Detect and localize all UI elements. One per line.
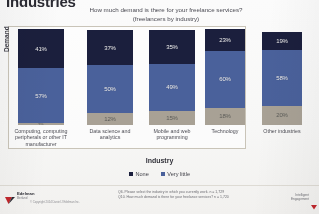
slide-canvas: Industries How much demand is there for … [0, 0, 319, 214]
tagline: Intelligent Engagement [291, 193, 309, 201]
legend-label: None [135, 171, 148, 177]
x-axis-category-label: Data science andanalytics [79, 128, 141, 141]
stacked-bar[interactable]: 37%50%12% [87, 29, 133, 125]
bar-group: 35%49%15% [149, 29, 195, 125]
bar-segment-very-little[interactable]: 50% [87, 65, 133, 113]
x-axis-category-label: Technology [197, 128, 253, 134]
bar-segment-very-little[interactable]: 60% [205, 51, 245, 108]
legend-item[interactable]: None [129, 171, 149, 177]
bar-segment-value: 35% [166, 44, 178, 50]
bar-segment-value: 49% [166, 84, 178, 90]
x-axis-category-label: Other industries [254, 128, 310, 134]
footnote-line-2: Q10. How much demand is there for your f… [118, 195, 229, 200]
stacked-bar[interactable]: 35%49%15% [149, 29, 195, 125]
bar-segment-value: 37% [104, 45, 116, 51]
bar-segment-very-little[interactable]: 58% [262, 50, 302, 106]
bar-segment-some[interactable]: 18% [205, 108, 245, 125]
bar-segment-none[interactable]: 41% [18, 29, 64, 68]
legend-item[interactable]: Very little [161, 171, 190, 177]
x-axis-category-label: Mobile and webprogramming [141, 128, 203, 141]
question-line-1: How much demand is there for your freela… [66, 6, 266, 15]
legend-label: Very little [167, 171, 190, 177]
bar-group: 23%60%18% [205, 29, 245, 125]
bar-segment-none[interactable]: 35% [149, 30, 195, 64]
logo-triangle-icon [5, 191, 15, 201]
footnote-line-1: Q6. Please select the industry in which … [118, 190, 229, 195]
bar-segment-value: 12% [104, 116, 116, 122]
legend-swatch-icon [129, 172, 133, 176]
bar-segment-some[interactable]: 15% [149, 111, 195, 125]
category-label-line: Technology [197, 128, 253, 134]
bar-group: 19%58%20% [262, 29, 302, 125]
copyright-text: © Copyright 2014 Daniel J Edelman Inc. [30, 200, 80, 204]
chart-question-header: How much demand is there for your freela… [66, 6, 266, 23]
bar-segment-none[interactable]: 19% [262, 32, 302, 50]
x-axis-label: Industry [0, 157, 319, 164]
bar-segment-value: 18% [219, 113, 231, 119]
bar-group: 37%50%12% [87, 29, 133, 125]
bar-segment-some[interactable]: 20% [262, 106, 302, 125]
bar-segment-value: 50% [104, 86, 116, 92]
stacked-bar[interactable]: 41%57%2% [18, 29, 64, 125]
bar-segment-very-little[interactable]: 57% [18, 68, 64, 123]
bar-segment-some[interactable]: 2% [18, 123, 64, 125]
bar-segment-some[interactable]: 12% [87, 113, 133, 125]
category-label-line: analytics [79, 134, 141, 140]
category-label-line: manufacturer [10, 141, 72, 147]
category-label-line: programming [141, 134, 203, 140]
bar-segment-value: 20% [276, 112, 288, 118]
y-axis-label: Demand [3, 26, 10, 52]
bar-segment-none[interactable]: 23% [205, 29, 245, 51]
legend-swatch-icon [161, 172, 165, 176]
bar-segment-value: 19% [276, 38, 288, 44]
bar-segment-none[interactable]: 37% [87, 30, 133, 66]
stacked-bar[interactable]: 23%60%18% [205, 29, 245, 125]
bar-segment-value: 57% [35, 93, 47, 99]
question-line-2: (freelancers by industry) [66, 15, 266, 24]
chart-footnote: Q6. Please select the industry in which … [118, 190, 229, 199]
tagline-line-2: Engagement [291, 197, 309, 201]
bar-segment-value: 60% [219, 76, 231, 82]
corner-triangle-icon [311, 196, 317, 202]
bar-segment-very-little[interactable]: 49% [149, 64, 195, 111]
bar-segment-value: 41% [35, 46, 47, 52]
bar-group: 41%57%2% [18, 29, 64, 125]
bar-segment-value: 58% [276, 75, 288, 81]
bar-segment-value: 2% [38, 123, 44, 125]
bar-segment-value: 15% [166, 115, 178, 121]
bar-segment-value: 23% [219, 37, 231, 43]
logo-wordmark: Edelman Berland [17, 192, 34, 200]
chart-legend: NoneVery little [0, 171, 319, 177]
footer-divider [0, 185, 319, 186]
x-axis-category-label: Computing, computingperipherals or other… [10, 128, 72, 147]
category-label-line: peripherals or other IT [10, 134, 72, 140]
category-label-line: Other industries [254, 128, 310, 134]
stacked-bar[interactable]: 19%58%20% [262, 29, 302, 125]
